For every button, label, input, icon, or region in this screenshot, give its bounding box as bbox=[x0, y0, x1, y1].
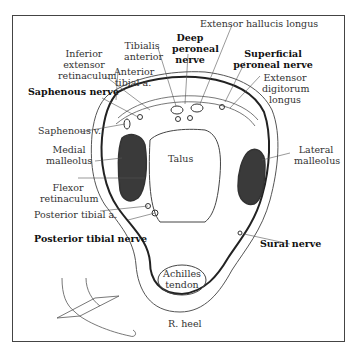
label-posterior-tibial-artery: Posterior tibial a. bbox=[34, 209, 117, 220]
label-medial-malleolus: Medial malleolus bbox=[46, 144, 92, 166]
label-superficial-peroneal-nerve: Superficial peroneal nerve bbox=[228, 48, 318, 70]
label-tibialis-anterior: Tibialis anterior bbox=[124, 40, 160, 62]
talus-bone bbox=[149, 129, 220, 222]
label-deep-peroneal-nerve: Deep peroneal nerve bbox=[172, 32, 208, 65]
foot-inset-sketch bbox=[57, 278, 136, 336]
label-flexor-retinaculum: Flexor retinaculum bbox=[40, 182, 96, 204]
label-extensor-hallucis-longus: Extensor hallucis longus bbox=[200, 18, 318, 29]
medial-malleolus-bone bbox=[118, 135, 146, 201]
lateral-malleolus-bone bbox=[238, 149, 265, 204]
label-sural-nerve: Sural nerve bbox=[260, 238, 321, 249]
label-extensor-digitorum-longus: Extensor digitorum longus bbox=[262, 72, 308, 105]
label-lateral-malleolus: Lateral malleolus bbox=[294, 144, 338, 166]
label-saphenous-nerve: Saphenous nerve bbox=[28, 86, 119, 97]
label-talus: Talus bbox=[168, 153, 193, 164]
label-anterior-tibial-artery: Anterior tibial a. bbox=[114, 66, 152, 88]
label-inferior-extensor-retinaculum: Inferior extensor retinaculum bbox=[58, 48, 110, 81]
label-posterior-tibial-nerve: Posterior tibial nerve bbox=[34, 233, 147, 244]
label-saphenous-vein: Saphenous v. bbox=[38, 125, 101, 136]
label-achilles-tendon: Achilles tendon bbox=[162, 268, 202, 290]
label-r-heel: R. heel bbox=[168, 318, 202, 329]
